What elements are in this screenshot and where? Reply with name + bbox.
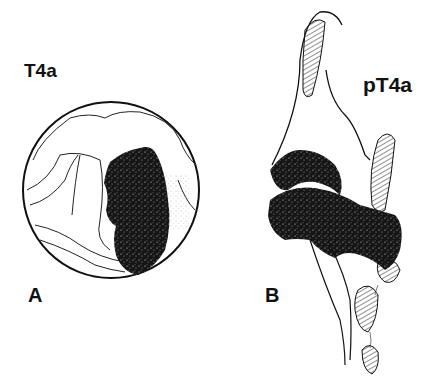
panel-b-drawing: [268, 12, 402, 374]
panel-a-letter: A: [28, 284, 42, 307]
cartilage-top: [303, 20, 325, 97]
cartilage-ring1: [355, 286, 378, 332]
panel-a-drawing: [23, 102, 199, 278]
cartilage-mid: [371, 134, 395, 212]
panel-b-letter: B: [265, 284, 279, 307]
panel-a-stage-label: T4a: [24, 60, 57, 82]
cartilage-lower: [377, 260, 400, 283]
panel-b-stage-label: pT4a: [363, 73, 412, 97]
illustration: [0, 0, 435, 387]
cartilage-ring2: [362, 345, 378, 374]
